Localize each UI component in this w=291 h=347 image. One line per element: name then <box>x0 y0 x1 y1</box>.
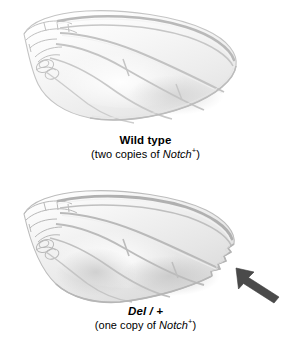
arrow-glyph <box>236 268 279 303</box>
caption-sub-prefix-wild-type: (two copies of <box>91 148 163 160</box>
caption-sub-suffix-mutant: ) <box>192 319 196 331</box>
notch-phenotype-figure: Wild type (two copies of Notch+) <box>0 0 291 347</box>
caption-sub-suffix-wild-type: ) <box>196 148 200 160</box>
caption-sub-prefix-mutant: (one copy of <box>95 319 159 331</box>
caption-subtitle-wild-type: (two copies of Notch+) <box>0 147 291 161</box>
caption-subtitle-mutant: (one copy of Notch+) <box>0 318 291 332</box>
panel-wild-type: Wild type (two copies of Notch+) <box>0 0 291 168</box>
caption-title-wild-type: Wild type <box>0 133 291 147</box>
caption-mutant: Del / + (one copy of Notch+) <box>0 304 291 332</box>
caption-title-mutant: Del / + <box>0 304 291 318</box>
gene-name-wild-type: Notch <box>163 148 192 160</box>
notch-pointer-arrow <box>232 262 288 304</box>
caption-wild-type: Wild type (two copies of Notch+) <box>0 133 291 161</box>
wild-type-wing-illustration <box>0 0 291 130</box>
gene-name-mutant: Notch <box>159 319 188 331</box>
